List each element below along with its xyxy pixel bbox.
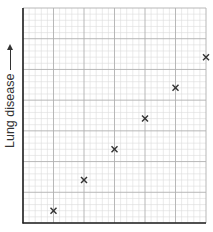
scatter-chart: [0, 0, 213, 232]
